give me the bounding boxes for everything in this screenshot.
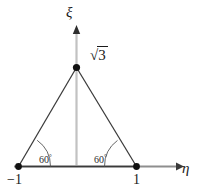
vertex-dot-right (133, 163, 140, 170)
angle-label-left: 60° (39, 154, 52, 165)
xi-axis (73, 25, 80, 168)
angle-label-left-unit: ° (49, 153, 52, 161)
right-vertex-label: 1 (133, 173, 140, 187)
xi-axis-arrowhead (73, 25, 80, 34)
eta-axis-label: η (182, 161, 189, 176)
angle-label-left-value: 60 (39, 154, 49, 165)
vertex-dot-apex (73, 64, 80, 71)
angle-label-right-unit: ° (104, 153, 107, 161)
left-vertex-label: −1 (7, 173, 22, 187)
figure-canvas: ξ η √3 −1 1 60° 60° (0, 0, 201, 195)
sqrt-radicand: 3 (97, 46, 108, 63)
xi-axis-label: ξ (66, 5, 72, 20)
angle-label-right-value: 60 (94, 154, 104, 165)
diagram-svg (0, 0, 201, 195)
apex-value-label: √3 (90, 48, 108, 63)
vertex-dot-left (15, 163, 22, 170)
triangle-right-side (77, 68, 137, 167)
angle-label-right: 60° (94, 154, 107, 165)
